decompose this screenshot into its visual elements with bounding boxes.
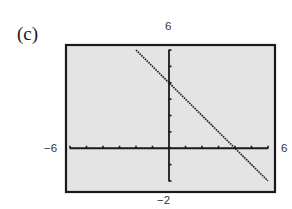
calculator-graph-screen <box>0 0 292 209</box>
